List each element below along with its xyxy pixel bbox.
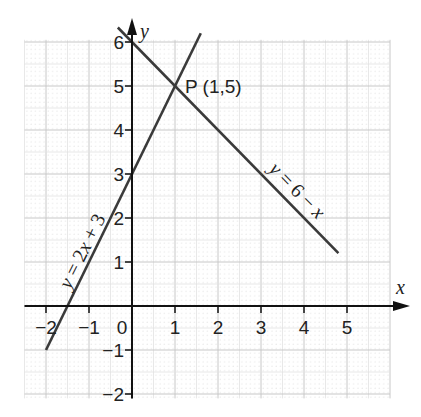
y-tick-label: 2: [113, 208, 124, 229]
y-tick-label: 5: [113, 76, 124, 97]
x-tick-label: 3: [256, 317, 267, 338]
y-tick-label: 4: [113, 120, 124, 141]
y-tick-label: 1: [113, 252, 124, 273]
y-axis-label: y: [138, 20, 149, 43]
y-tick-label: 6: [113, 32, 124, 53]
point-label: P (1,5): [185, 76, 242, 97]
line-graph: −2−1012345−2−1123456xy y = 2x + 3y = 6 −…: [0, 0, 421, 417]
x-tick-label: 4: [299, 317, 310, 338]
annotations: P (1,5): [185, 76, 242, 97]
y-tick-label: −1: [102, 340, 124, 361]
x-axis-arrow-icon: [393, 301, 410, 311]
x-tick-label: 2: [213, 317, 224, 338]
x-tick-label: 5: [342, 317, 353, 338]
x-axis-label: x: [395, 276, 405, 298]
x-tick-label: −1: [78, 317, 100, 338]
y-tick-label: −2: [102, 384, 124, 405]
x-tick-label: 0: [117, 317, 128, 338]
x-tick-label: −2: [35, 317, 57, 338]
y-axis-arrow-icon: [127, 18, 137, 35]
y-tick-label: 3: [113, 164, 124, 185]
x-tick-label: 1: [170, 317, 181, 338]
